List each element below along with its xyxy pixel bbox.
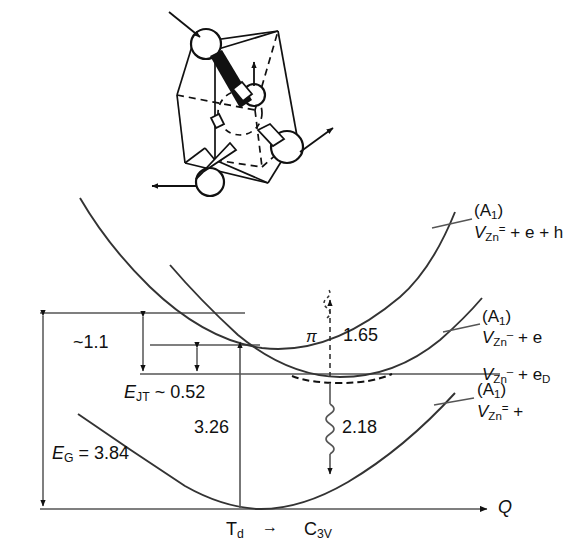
barrier-value-label: ~1.1	[73, 333, 109, 351]
curve-lower-state: VZn= +	[477, 403, 523, 423]
band-gap-label: EG = 3.84	[52, 444, 129, 465]
potential-curves	[78, 198, 482, 509]
emission-value-label: 2.18	[342, 418, 377, 436]
jahn-teller-label: EJT ~ 0.52	[124, 383, 205, 404]
axis-tick-c3v: C3V	[304, 520, 332, 541]
curve-upper	[80, 198, 455, 349]
curve-lower	[78, 393, 455, 509]
reference-levels	[40, 313, 500, 374]
excitation-value-label: 1.65	[343, 326, 378, 344]
excitation-arrow	[324, 288, 330, 377]
curve-upper-state: VZn= + e + h	[474, 224, 563, 244]
axis-tick-td: Td	[226, 520, 244, 541]
axis-label-q: Q	[498, 498, 512, 516]
curve-upper-symmetry: (A1)	[474, 202, 503, 222]
curve-middle-symmetry: (A1)	[482, 308, 511, 328]
excitation-squiggle	[324, 288, 330, 318]
curve-relaxed-dashed	[292, 374, 392, 383]
curve-middle-state: VZn– + e	[482, 329, 542, 349]
crystal-structure-inset	[152, 12, 333, 196]
curve-middle	[170, 265, 482, 377]
axis-transition-arrow-icon: →	[262, 519, 278, 535]
absorption-value-label: 3.26	[194, 418, 229, 436]
excitation-symbol-label: π	[306, 329, 317, 345]
curve-lower-symmetry: (A1)	[477, 381, 506, 401]
emission-arrow	[326, 383, 334, 474]
